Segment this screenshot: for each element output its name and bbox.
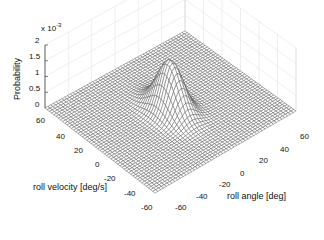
y-tick-20: 20 [74,147,83,155]
z-tick-1-5: 1.5 [29,53,40,61]
x-tick-40: 40 [280,146,289,154]
x-tick-60: 60 [300,133,309,141]
z-exponent-label: x 10-3 [41,22,61,33]
surface-mesh [45,31,296,193]
z-tick-0: 0 [35,101,39,109]
x-axis-title: roll angle [deg] [227,192,286,201]
x-tick-neg40: -40 [196,193,208,201]
z-tick-1: 1 [35,69,39,77]
x-tick-0: 0 [240,170,244,178]
y-tick-60: 60 [36,117,45,125]
y-tick-neg40: -40 [124,190,136,198]
x-tick-neg20: -20 [219,181,231,189]
z-tick-2: 2 [35,37,39,45]
x-tick-neg60: -60 [175,204,187,212]
y-tick-neg60: -60 [141,204,153,212]
y-tick-0: 0 [95,161,99,169]
x-tick-20: 20 [259,157,268,165]
z-tick-0-5: 0.5 [29,85,40,93]
y-axis-title: roll velocity [deg/s] [33,183,107,192]
y-tick-40: 40 [56,133,65,141]
z-axis-title: Probability [13,58,22,100]
